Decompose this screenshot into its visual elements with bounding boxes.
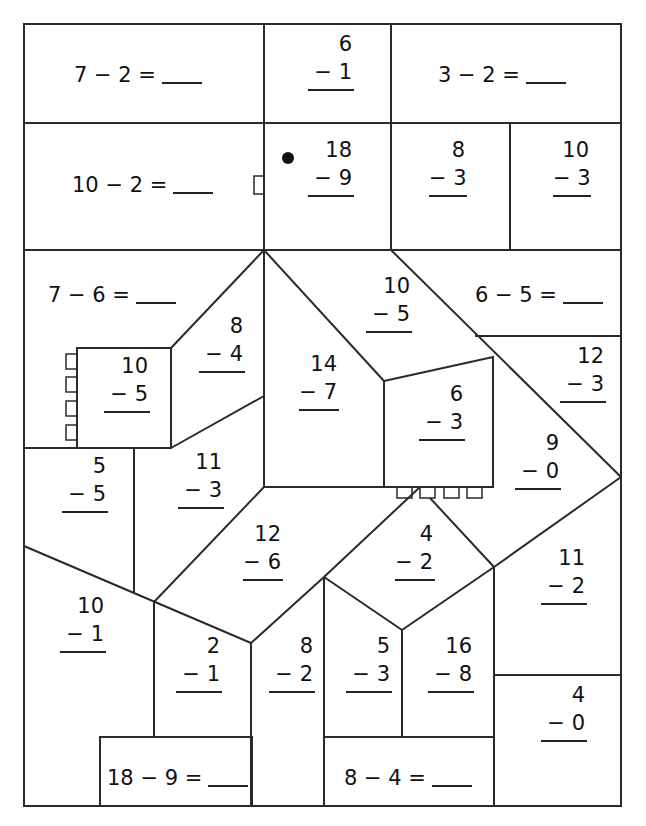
minuend: 12 <box>560 346 606 374</box>
minuend: 10 <box>104 356 150 384</box>
vertical-problem: 14− 7 <box>299 354 339 411</box>
minuend: 5 <box>346 636 392 664</box>
subtrahend: − 2 <box>541 576 587 605</box>
subtrahend: − 9 <box>308 168 354 197</box>
answer-blank[interactable] <box>173 174 213 194</box>
subtrahend: − 3 <box>429 168 467 197</box>
problem-text: 7 − 6 = <box>48 283 130 307</box>
minuend: 6 <box>419 384 465 412</box>
subtrahend: − 1 <box>308 62 354 91</box>
vertical-problem: 12− 6 <box>243 524 283 581</box>
subtrahend: − 5 <box>104 384 150 413</box>
vertical-problem: 9− 0 <box>515 433 561 490</box>
minuend: 18 <box>308 140 354 168</box>
answer-blank[interactable] <box>208 767 248 787</box>
answer-blank[interactable] <box>563 284 603 304</box>
subtrahend: − 5 <box>366 304 412 333</box>
subtrahend: − 6 <box>243 552 283 581</box>
problem-text: 10 − 2 = <box>72 173 167 197</box>
vertical-problem: 11− 3 <box>178 452 224 509</box>
subtrahend: − 0 <box>515 461 561 490</box>
minuend: 8 <box>429 140 467 168</box>
minuend: 4 <box>541 685 587 713</box>
minuend: 11 <box>178 452 224 480</box>
horizontal-problem: 18 − 9 = <box>107 767 248 789</box>
vertical-problem: 6− 3 <box>419 384 465 441</box>
subtrahend: − 3 <box>178 480 224 509</box>
subtrahend: − 3 <box>553 168 591 197</box>
dot-icon <box>282 152 294 164</box>
answer-blank[interactable] <box>162 64 202 84</box>
subtrahend: − 8 <box>428 664 474 693</box>
vertical-problem: 2− 1 <box>176 636 222 693</box>
horizontal-problem: 8 − 4 = <box>344 767 472 789</box>
subtrahend: − 3 <box>419 412 465 441</box>
subtrahend: − 3 <box>346 664 392 693</box>
subtrahend: − 3 <box>560 374 606 403</box>
vertical-problem: 10− 1 <box>60 596 106 653</box>
minuend: 2 <box>176 636 222 664</box>
small-square-icon <box>254 176 264 194</box>
vertical-problem: 6− 1 <box>308 34 354 91</box>
minuend: 14 <box>299 354 339 382</box>
minuend: 10 <box>366 276 412 304</box>
vertical-problem: 4− 0 <box>541 685 587 742</box>
problem-text: 18 − 9 = <box>107 766 202 790</box>
minuend: 11 <box>541 548 587 576</box>
horizontal-problem: 6 − 5 = <box>475 284 603 306</box>
vertical-problem: 5− 5 <box>62 456 108 513</box>
minuend: 10 <box>553 140 591 168</box>
problem-text: 8 − 4 = <box>344 766 426 790</box>
vertical-problem: 10− 5 <box>104 356 150 413</box>
horizontal-problem: 3 − 2 = <box>438 64 566 86</box>
vertical-problem: 18− 9 <box>308 140 354 197</box>
problem-text: 3 − 2 = <box>438 63 520 87</box>
vertical-problem: 8− 2 <box>269 636 315 693</box>
vertical-problem: 16− 8 <box>428 636 474 693</box>
vertical-problem: 10− 3 <box>553 140 591 197</box>
answer-blank[interactable] <box>526 64 566 84</box>
subtrahend: − 0 <box>541 713 587 742</box>
subtrahend: − 1 <box>176 664 222 693</box>
vertical-problem: 8− 3 <box>429 140 467 197</box>
subtrahend: − 7 <box>299 382 339 411</box>
horizontal-problem: 7 − 6 = <box>48 284 176 306</box>
minuend: 8 <box>199 316 245 344</box>
minuend: 8 <box>269 636 315 664</box>
vertical-problem: 10− 5 <box>366 276 412 333</box>
minuend: 12 <box>243 524 283 552</box>
minuend: 4 <box>395 524 435 552</box>
minuend: 16 <box>428 636 474 664</box>
subtrahend: − 5 <box>62 484 108 513</box>
horizontal-problem: 10 − 2 = <box>72 174 213 196</box>
subtrahend: − 2 <box>269 664 315 693</box>
vertical-problem: 4− 2 <box>395 524 435 581</box>
subtrahend: − 2 <box>395 552 435 581</box>
minuend: 6 <box>308 34 354 62</box>
horizontal-problem: 7 − 2 = <box>74 64 202 86</box>
minuend: 5 <box>62 456 108 484</box>
vertical-problem: 8− 4 <box>199 316 245 373</box>
answer-blank[interactable] <box>136 284 176 304</box>
answer-blank[interactable] <box>432 767 472 787</box>
vertical-problem: 11− 2 <box>541 548 587 605</box>
minuend: 9 <box>515 433 561 461</box>
vertical-problem: 5− 3 <box>346 636 392 693</box>
problem-text: 7 − 2 = <box>74 63 156 87</box>
problem-text: 6 − 5 = <box>475 283 557 307</box>
subtrahend: − 1 <box>60 624 106 653</box>
vertical-problem: 12− 3 <box>560 346 606 403</box>
minuend: 10 <box>60 596 106 624</box>
subtrahend: − 4 <box>199 344 245 373</box>
